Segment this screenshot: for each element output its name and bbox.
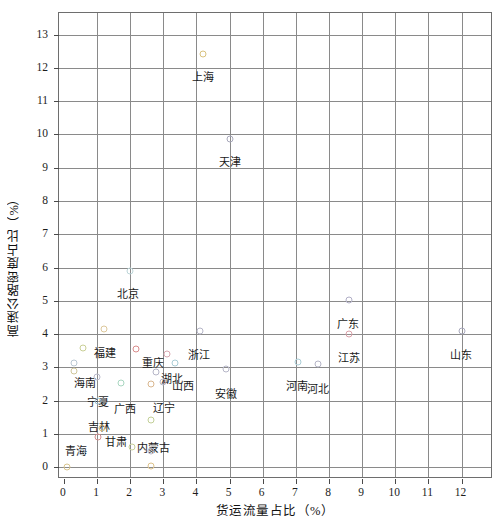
gridline-horizontal — [59, 168, 491, 169]
data-point[interactable] — [200, 50, 207, 57]
gridline-horizontal — [59, 101, 491, 102]
y-axis-tick — [54, 201, 59, 202]
data-point[interactable] — [94, 397, 101, 404]
gridline-horizontal — [59, 134, 491, 135]
y-axis-title-text: 高速公路密度占比（%） — [4, 191, 23, 337]
gridline-horizontal — [59, 268, 491, 269]
data-point[interactable] — [196, 327, 203, 334]
data-point[interactable] — [315, 361, 322, 368]
y-axis-tick-label: 4 — [26, 327, 48, 339]
x-axis-tick-label: 5 — [226, 486, 232, 498]
data-point[interactable] — [226, 136, 233, 143]
data-point-label: 山东 — [450, 346, 472, 362]
data-point[interactable] — [70, 368, 77, 375]
x-axis-tick — [163, 479, 164, 484]
y-axis-tick-label: 8 — [26, 194, 48, 206]
y-axis-tick — [54, 268, 59, 269]
data-point-label: 内蒙古 — [137, 439, 170, 455]
data-point[interactable] — [117, 380, 124, 387]
data-point[interactable] — [223, 366, 230, 373]
y-axis-tick-label: 11 — [26, 94, 48, 106]
data-point[interactable] — [133, 346, 140, 353]
data-point[interactable] — [127, 267, 134, 274]
data-point[interactable] — [99, 425, 106, 432]
x-axis-tick-label: 9 — [358, 486, 364, 498]
gridline-vertical — [462, 13, 463, 477]
data-point[interactable] — [345, 331, 352, 338]
data-point-label: 广西 — [114, 400, 136, 416]
plot-area: 上海天津北京广东江苏山东浙江福建重庆湖北山西海南安徽河南河北宁夏广西辽宁吉林甘肃… — [58, 12, 492, 478]
gridline-horizontal — [59, 234, 491, 235]
x-axis-tick-label: 10 — [389, 486, 401, 498]
y-axis-tick — [54, 168, 59, 169]
y-axis-title: 高速公路密度占比（%） — [2, 0, 24, 527]
x-axis-tick — [263, 479, 264, 484]
x-axis-tick — [362, 479, 363, 484]
data-point-label: 山西 — [172, 377, 194, 393]
data-point-label: 浙江 — [188, 346, 210, 362]
y-axis-tick — [54, 101, 59, 102]
data-point[interactable] — [153, 369, 160, 376]
y-axis-tick — [54, 467, 59, 468]
data-point[interactable] — [345, 297, 352, 304]
x-axis-tick — [395, 479, 396, 484]
y-axis-tick — [54, 401, 59, 402]
data-point[interactable] — [294, 358, 301, 365]
gridline-vertical — [263, 13, 264, 477]
x-axis-tick-label: 12 — [455, 486, 467, 498]
data-point[interactable] — [147, 462, 154, 469]
gridline-horizontal — [59, 35, 491, 36]
data-point[interactable] — [159, 379, 166, 386]
data-point[interactable] — [128, 443, 135, 450]
data-point[interactable] — [147, 447, 154, 454]
data-point-label: 福建 — [94, 344, 116, 360]
y-axis-tick — [54, 434, 59, 435]
data-point[interactable] — [147, 381, 154, 388]
x-axis-tick-label: 0 — [60, 486, 66, 498]
y-axis-tick — [54, 301, 59, 302]
gridline-vertical — [362, 13, 363, 477]
data-point[interactable] — [64, 463, 71, 470]
data-point-label: 甘肃 — [105, 433, 127, 449]
data-point[interactable] — [101, 326, 108, 333]
scatter-chart-figure: 上海天津北京广东江苏山东浙江福建重庆湖北山西海南安徽河南河北宁夏广西辽宁吉林甘肃… — [0, 0, 499, 527]
x-axis-title: 货运流量占比（%） — [58, 500, 492, 519]
data-point[interactable] — [147, 417, 154, 424]
data-point-label: 天津 — [219, 153, 241, 169]
x-axis-tick — [428, 479, 429, 484]
gridline-horizontal — [59, 467, 491, 468]
data-point-label: 上海 — [192, 68, 214, 84]
x-axis-tick — [196, 479, 197, 484]
data-point-label: 河北 — [307, 380, 329, 396]
y-axis-tick-label: 10 — [26, 127, 48, 139]
y-axis-tick-label: 0 — [26, 460, 48, 472]
gridline-vertical — [296, 13, 297, 477]
y-axis-tick-label: 3 — [26, 360, 48, 372]
data-point-label: 江苏 — [338, 349, 360, 365]
data-point[interactable] — [163, 351, 170, 358]
x-axis-tick — [97, 479, 98, 484]
data-point[interactable] — [171, 360, 178, 367]
y-axis-tick-label: 12 — [26, 61, 48, 73]
x-axis-tick — [462, 479, 463, 484]
data-point[interactable] — [458, 327, 465, 334]
data-point-label: 安徽 — [215, 385, 237, 401]
y-axis-tick-label: 5 — [26, 294, 48, 306]
y-axis-tick — [54, 367, 59, 368]
data-point-label: 广东 — [337, 315, 359, 331]
x-axis-tick — [329, 479, 330, 484]
data-point[interactable] — [80, 344, 87, 351]
x-axis-tick-label: 7 — [292, 486, 298, 498]
x-axis-tick-label: 4 — [193, 486, 199, 498]
data-point[interactable] — [70, 360, 77, 367]
y-axis-tick-label: 7 — [26, 227, 48, 239]
data-point[interactable] — [94, 374, 101, 381]
y-axis-tick — [54, 234, 59, 235]
data-point[interactable] — [79, 449, 86, 456]
y-axis-tick-label: 13 — [26, 28, 48, 40]
gridline-horizontal — [59, 68, 491, 69]
data-point[interactable] — [94, 434, 101, 441]
gridline-vertical — [395, 13, 396, 477]
y-axis-tick-label: 6 — [26, 261, 48, 273]
x-axis-tick — [64, 479, 65, 484]
